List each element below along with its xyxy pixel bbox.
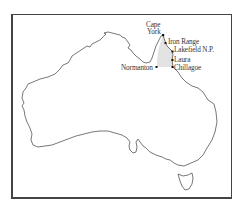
label-normanton: Normanton	[121, 65, 153, 72]
marker-cape-york	[162, 34, 164, 36]
label-york: York	[147, 29, 161, 36]
label-lakefield: Lakefield N.P.	[174, 47, 214, 54]
australia-map	[0, 0, 244, 207]
marker-iron-range	[165, 42, 167, 44]
label-chillagoe: Chillagoe	[174, 65, 201, 72]
tasmania	[178, 173, 193, 190]
marker-normanton	[156, 66, 158, 68]
